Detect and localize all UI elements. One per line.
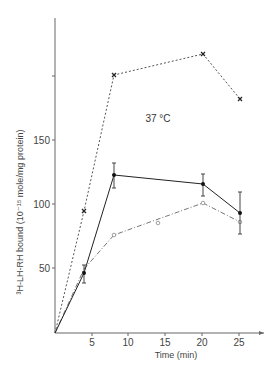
open-circle-marker-icon [112, 201, 242, 237]
error-bars [82, 163, 242, 283]
filled-circle-marker-icon [82, 173, 242, 275]
line-chart: 50 100 150 5 10 15 20 25 Time (min) ³H-L… [0, 0, 279, 374]
cross-marker-icon [82, 52, 242, 213]
x-tick-label-10: 10 [122, 337, 134, 348]
axes [55, 18, 264, 335]
x-tick-label-15: 15 [159, 337, 171, 348]
x-tick-label-20: 20 [196, 337, 208, 348]
x-axis-arrow-icon [259, 331, 264, 335]
x-axis-title: Time (min) [155, 350, 198, 360]
temperature-annotation: 37 °C [145, 113, 170, 124]
y-axis-title: ³H-LH-RH bound (10⁻¹⁵ mole/mg protein) [15, 130, 25, 295]
x-tick-label-25: 25 [233, 337, 245, 348]
x-tick-label-5: 5 [89, 337, 95, 348]
series-filled-circles [55, 163, 242, 333]
y-tick-label-50: 50 [39, 263, 51, 274]
series-open-circles [55, 201, 242, 333]
y-tick-label-100: 100 [33, 199, 50, 210]
y-tick-label-150: 150 [33, 135, 50, 146]
